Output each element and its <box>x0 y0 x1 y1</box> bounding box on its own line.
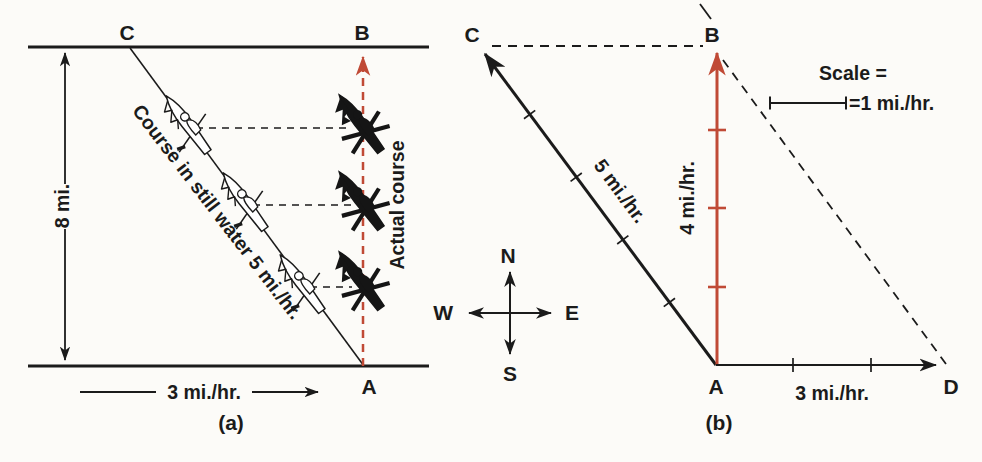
resultant-velocity-label: 4 mi./hr. <box>676 161 698 235</box>
panel-b-caption: (b) <box>706 411 733 434</box>
compass-south-label: S <box>503 362 517 385</box>
point-b-label-b: B <box>704 23 719 46</box>
current-label: 3 mi./hr. <box>167 381 241 403</box>
scale-title: Scale = <box>819 62 887 84</box>
still-water-course-label: Course in still water 5 mi./hr. <box>128 100 306 323</box>
compass-west-label: W <box>433 301 453 324</box>
panel-b: 5 mi./hr. 4 mi./hr. 3 mi./hr. Scale = =1… <box>433 4 958 434</box>
textbook-vector-figure: 8 mi. 3 mi./hr. Course in still water 5 … <box>0 0 982 462</box>
point-a-label-a: A <box>361 375 376 398</box>
compass-east-label: E <box>565 301 579 324</box>
compass-north-label: N <box>500 244 515 267</box>
compass-rose: N S W E <box>433 244 579 385</box>
panel-a-caption: (a) <box>218 411 244 434</box>
dashed-line-bd-extension <box>700 4 711 19</box>
point-d-label-b: D <box>943 375 958 398</box>
scale-bar <box>770 97 846 110</box>
river-width-label: 8 mi. <box>51 184 73 228</box>
point-b-label-a: B <box>354 21 369 44</box>
panel-a: 8 mi. 3 mi./hr. Course in still water 5 … <box>28 21 429 434</box>
point-a-label-b: A <box>708 375 723 398</box>
figure-svg: 8 mi. 3 mi./hr. Course in still water 5 … <box>0 0 982 462</box>
current-velocity-label: 3 mi./hr. <box>795 382 869 404</box>
point-c-label-a: C <box>119 21 134 44</box>
scale-value: =1 mi./hr. <box>849 92 934 114</box>
point-c-label-b: C <box>464 23 479 46</box>
boat-velocity-label: 5 mi./hr. <box>590 155 652 227</box>
